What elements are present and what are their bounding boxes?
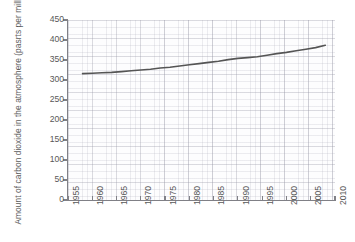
co2-line-chart: Amount of carbon dioxide in the atmosphe… (0, 0, 355, 242)
co2-trend-line (83, 45, 326, 73)
y-tick-label: 50 (24, 175, 64, 184)
y-tick-label: 0 (24, 195, 64, 204)
y-tick-label: 100 (24, 155, 64, 164)
y-tick-label: 350 (24, 55, 64, 64)
y-tick-label: 300 (24, 75, 64, 84)
y-tick-label: 450 (24, 15, 64, 24)
x-tick-label: 2010 (339, 186, 348, 205)
y-tick-label: 250 (24, 95, 64, 104)
y-tick-label: 150 (24, 135, 64, 144)
data-series-layer (68, 20, 335, 200)
y-tick-label: 200 (24, 115, 64, 124)
y-tick-label: 400 (24, 35, 64, 44)
y-axis-title-text: Amount of carbon dioxide in the atmosphe… (13, 0, 23, 224)
